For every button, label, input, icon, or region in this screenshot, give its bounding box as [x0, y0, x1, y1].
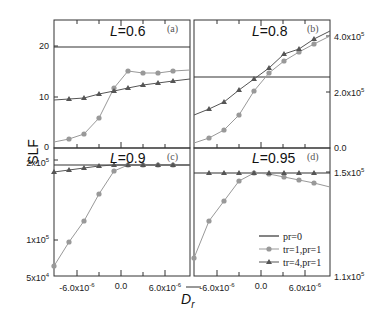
x-axis-label: Dr	[181, 291, 195, 310]
a-ytick-0: 0	[44, 142, 49, 152]
d-ytick-1.1e5: 1.1x105	[334, 271, 365, 282]
panel-c-series	[51, 162, 190, 269]
panel-c-label: (c)	[167, 151, 178, 163]
legend-item-tr1: tr=1,pr=1	[283, 244, 321, 255]
c-ytick-1e5: 1x105	[26, 234, 50, 245]
b-ytick-4e5: 4.0x105	[334, 31, 365, 42]
b-ytick-2e5: 2.0x105	[334, 87, 365, 98]
panel-b-label: (b)	[307, 23, 319, 35]
panel-d-label: (d)	[307, 151, 319, 163]
c-ytick-5e4: 5x104	[26, 272, 50, 283]
panel-c-title: L=0.9	[110, 150, 146, 166]
circle-marker-icon	[266, 246, 271, 251]
d-xtick-neg: -6.0x10-6	[199, 282, 235, 293]
y-axis-label: SLF	[25, 139, 41, 165]
panel-d-title: L=0.95	[252, 150, 295, 166]
b-ytick-0: 0.0	[334, 143, 347, 153]
c-xtick-neg: -6.0x10-6	[59, 282, 95, 293]
c-xtick-zero: 0.0	[115, 281, 128, 291]
d-xtick-pos: 6.0x10-6	[289, 282, 322, 293]
a-ytick-20: 20	[39, 41, 49, 51]
panel-a-title: L=0.6	[110, 23, 146, 39]
c-xtick-pos: 6.0x10-6	[149, 282, 182, 293]
panel-a-frame	[54, 20, 190, 148]
chart-canvas: L=0.6 L=0.8 L=0.9 L=0.95 (a) (b) (c) (d)…	[0, 0, 387, 325]
panel-b-title: L=0.8	[252, 23, 288, 39]
legend-item-tr4: tr=4,pr=1	[283, 257, 321, 268]
panel-b-frame	[194, 20, 330, 148]
d-ytick-1.5e5: 1.5x105	[334, 167, 365, 178]
legend: pr=0 tr=1,pr=1 tr=4,pr=1	[259, 231, 321, 268]
a-ytick-10: 10	[39, 92, 49, 102]
panel-a-series	[54, 47, 190, 142]
panel-a-label: (a)	[167, 23, 178, 35]
legend-item-pr0: pr=0	[283, 231, 302, 242]
d-xtick-zero: 0.0	[255, 281, 268, 291]
panel-b-series	[194, 31, 330, 143]
